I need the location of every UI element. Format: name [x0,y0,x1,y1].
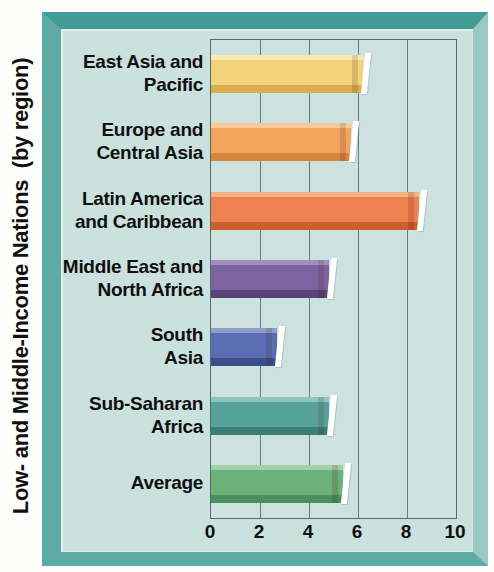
category-label-line: East Asia and [83,50,203,73]
category-label-2: Latin Americaand Caribbean [58,176,203,244]
category-label-line: and Caribbean [75,210,203,233]
category-label-line: Latin America [82,187,203,210]
bar-end-shade [352,55,358,93]
bar-end-shade [408,192,414,230]
category-label-5: Sub-SaharanAfrica [58,380,203,448]
category-label-line: Pacific [144,73,203,96]
x-tick-label-6: 6 [352,521,363,543]
category-label-6: Average [58,449,203,517]
bar-3 [211,260,329,298]
x-tick-label-0: 0 [205,521,216,543]
bar-6 [211,465,343,503]
x-axis: 0246810 [210,521,455,547]
bar-end-highlight [275,326,285,367]
category-label-line: Central Asia [96,141,203,164]
bar-end-shade [340,123,346,161]
x-tick-label-4: 4 [303,521,314,543]
category-label-0: East Asia andPacific [58,39,203,107]
y-axis-title-strip: Low- and Middle-Income Nations (by regio… [0,0,42,572]
category-label-line: North Africa [98,278,203,301]
category-label-line: Europe and [101,118,203,141]
bar-end-shade [318,397,324,435]
category-label-line: South [151,323,203,346]
category-label-line: Middle East and [63,255,203,278]
category-label-line: Asia [164,346,203,369]
category-label-line: Average [131,471,203,494]
category-label-line: Africa [151,415,203,438]
bar-end-shade [332,465,338,503]
figure: Low- and Middle-Income Nations (by regio… [0,0,494,572]
x-tick-label-2: 2 [254,521,265,543]
category-labels: East Asia andPacificEurope andCentral As… [58,39,203,517]
bar-1 [211,123,351,161]
bar-0 [211,55,363,93]
gridline-x-6 [358,40,359,518]
bar-end-highlight [341,463,351,504]
x-tick-label-10: 10 [444,521,465,543]
bar-5 [211,397,329,435]
category-label-1: Europe andCentral Asia [58,107,203,175]
bar-end-highlight [326,258,336,299]
y-axis-title: Low- and Middle-Income Nations (by regio… [8,58,34,514]
bar-4 [211,328,277,366]
bar-end-shade [318,260,324,298]
x-tick-label-8: 8 [401,521,412,543]
category-label-line: Sub-Saharan [89,392,203,415]
bar-end-highlight [417,190,427,231]
plot-area [210,39,457,519]
category-label-4: SouthAsia [58,312,203,380]
category-label-3: Middle East andNorth Africa [58,244,203,312]
gridline-x-8 [407,40,408,518]
bar-2 [211,192,419,230]
bar-end-highlight [326,395,336,436]
bar-end-highlight [361,53,371,94]
bar-end-shade [266,328,272,366]
